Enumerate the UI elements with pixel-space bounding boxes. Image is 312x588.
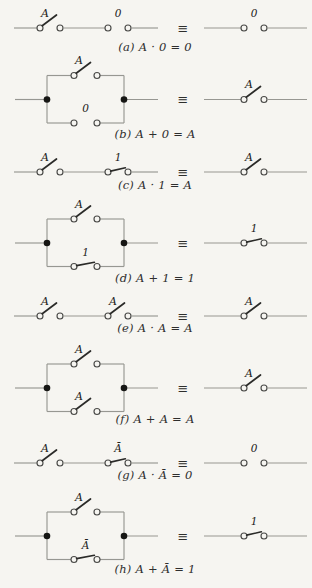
right-circuit-h: 1	[204, 515, 307, 539]
switch-label: A	[74, 343, 83, 356]
junction-dot	[44, 240, 51, 247]
boolean-switch-identities-figure: A00≡A0A≡A1A≡A11≡AAA≡AAA≡AĀ0≡AĀ1≡ (a) A ·…	[0, 0, 312, 588]
switch-label: A	[40, 442, 49, 455]
contact-terminal	[71, 120, 77, 126]
contact-terminal	[94, 216, 100, 222]
equivalence-symbol: ≡	[178, 236, 189, 251]
contact-terminal	[105, 25, 111, 31]
left-circuit-b: A0	[15, 54, 158, 126]
identity-row-a: A00≡	[14, 7, 307, 36]
contact-terminal	[241, 240, 247, 246]
switch-label: A	[108, 295, 117, 308]
junction-dot	[121, 240, 128, 247]
switch-label: 0	[82, 102, 89, 114]
left-circuit-a: A0	[14, 7, 158, 32]
switch-label: A	[244, 295, 253, 308]
contact-terminal	[105, 460, 111, 466]
switch-label: 0	[251, 442, 258, 454]
right-circuit-b: A	[204, 78, 307, 103]
identity-row-b: A0A≡	[15, 54, 307, 126]
contact-terminal	[57, 460, 63, 466]
switch-label: A	[244, 367, 253, 380]
caption-b: (b) A + 0 = A	[0, 128, 310, 141]
switch-label: 0	[115, 7, 122, 19]
caption-g: (g) A · Ā = 0	[0, 469, 310, 482]
switch-label: A	[74, 54, 83, 67]
identity-row-e: AAA≡	[14, 295, 307, 324]
contact-terminal	[94, 120, 100, 126]
contact-terminal	[261, 460, 267, 466]
switch-label: A	[244, 78, 253, 91]
contact-terminal	[125, 25, 131, 31]
right-circuit-a: 0	[204, 7, 307, 31]
contact-terminal	[57, 169, 63, 175]
junction-dot	[121, 96, 128, 103]
switch-label: A	[40, 295, 49, 308]
contact-terminal	[94, 361, 100, 367]
caption-h: (h) A + Ā = 1	[0, 563, 310, 576]
contact-terminal	[57, 25, 63, 31]
junction-dot	[44, 96, 51, 103]
identity-row-g: AĀ0≡	[14, 442, 307, 471]
caption-d: (d) A + 1 = 1	[0, 272, 310, 285]
contact-terminal	[261, 97, 267, 103]
contact-terminal	[261, 385, 267, 391]
closed-switch-blade	[77, 262, 95, 265]
identity-row-d: A11≡	[15, 198, 307, 270]
closed-switch-blade	[111, 168, 126, 171]
closed-switch-blade	[247, 239, 262, 242]
identity-row-c: A1A≡	[14, 151, 307, 180]
contact-terminal	[125, 169, 131, 175]
contact-terminal	[94, 557, 100, 563]
left-circuit-h: AĀ	[15, 491, 158, 563]
junction-dot	[121, 385, 128, 392]
identity-row-f: AAA≡	[15, 343, 307, 415]
switch-label: Ā	[113, 442, 122, 454]
switch-label: Ā	[81, 539, 90, 551]
junction-dot	[44, 533, 51, 540]
switch-label: 1	[251, 222, 258, 234]
equivalence-symbol: ≡	[178, 381, 189, 396]
right-circuit-g: 0	[204, 442, 307, 466]
contact-terminal	[57, 313, 63, 319]
switch-label: A	[40, 7, 49, 20]
contact-terminal	[105, 169, 111, 175]
switch-label: 1	[251, 515, 258, 527]
right-circuit-d: 1	[204, 222, 307, 246]
equivalence-symbol: ≡	[178, 529, 189, 544]
switch-label: A	[74, 491, 83, 504]
right-circuit-c: A	[204, 151, 307, 176]
contact-terminal	[94, 73, 100, 79]
right-circuit-f: A	[204, 367, 307, 392]
switch-label: 0	[251, 7, 258, 19]
switch-label: A	[40, 151, 49, 164]
left-circuit-c: A1	[14, 151, 158, 176]
switch-label: A	[74, 390, 83, 403]
identity-row-h: AĀ1≡	[15, 491, 307, 563]
contact-terminal	[261, 533, 267, 539]
left-circuit-f: AA	[15, 343, 158, 415]
caption-c: (c) A · 1 = A	[0, 179, 310, 192]
contact-terminal	[94, 509, 100, 515]
switch-label: 1	[82, 246, 89, 258]
contact-terminal	[261, 313, 267, 319]
contact-terminal	[261, 25, 267, 31]
closed-switch-blade	[247, 532, 262, 535]
closed-switch-blade	[111, 459, 126, 462]
left-circuit-g: AĀ	[14, 442, 158, 467]
switch-label: 1	[115, 151, 122, 163]
junction-dot	[44, 385, 51, 392]
switch-label: A	[74, 198, 83, 211]
caption-e: (e) A · A = A	[0, 322, 310, 335]
contact-terminal	[261, 240, 267, 246]
right-circuit-e: A	[204, 295, 307, 320]
closed-switch-blade	[77, 555, 95, 558]
circuit-diagrams: A00≡A0A≡A1A≡A11≡AAA≡AAA≡AĀ0≡AĀ1≡	[0, 0, 312, 588]
contact-terminal	[71, 264, 77, 270]
contact-terminal	[241, 460, 247, 466]
switch-label: A	[244, 151, 253, 164]
caption-a: (a) A · 0 = 0	[0, 41, 310, 54]
contact-terminal	[241, 25, 247, 31]
left-circuit-d: A1	[15, 198, 158, 270]
equivalence-symbol: ≡	[178, 92, 189, 107]
